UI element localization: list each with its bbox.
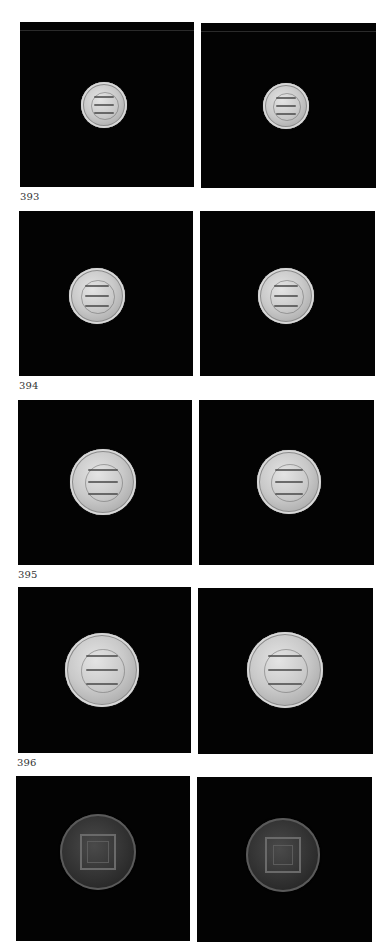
- coin-obverse-image: [70, 449, 136, 515]
- coin-inscription: [88, 469, 117, 495]
- coin-obverse-image: [69, 268, 125, 324]
- coin-obverse-image: [81, 82, 127, 128]
- coin-inner-square: [273, 845, 294, 866]
- photo-edge-line: [20, 30, 194, 31]
- coin-reverse-image: [258, 268, 314, 324]
- coin-inscription: [276, 97, 296, 115]
- coin-reverse-image: [263, 83, 309, 129]
- coin-inscription: [94, 96, 114, 114]
- coin-photo-reverse: [198, 588, 373, 754]
- coin-obverse-image: [65, 633, 139, 707]
- coin-inscription: [85, 285, 110, 307]
- coin-photo-reverse: [197, 777, 372, 942]
- coin-inscription: [274, 285, 299, 307]
- coin-photo-obverse: [16, 776, 190, 941]
- photo-edge-line: [201, 31, 376, 32]
- coin-photo-obverse: [18, 587, 191, 753]
- coin-inscription: [86, 655, 119, 685]
- coin-photo-obverse: [19, 211, 193, 376]
- catalog-number-label: 394: [19, 380, 39, 391]
- catalog-number-label: 393: [20, 191, 40, 202]
- coin-inner-square: [87, 841, 108, 862]
- coin-reverse-image: [257, 450, 321, 514]
- coin-reverse-image: [247, 632, 323, 708]
- catalog-number-label: 395: [18, 569, 38, 580]
- coin-photo-obverse: [20, 22, 194, 187]
- coin-photo-obverse: [18, 400, 192, 565]
- coin-photo-reverse: [200, 211, 375, 376]
- coin-reverse-image: [246, 818, 320, 892]
- coin-photo-reverse: [199, 400, 374, 565]
- coin-inscription: [268, 655, 301, 685]
- coin-obverse-image: [60, 814, 136, 890]
- catalog-number-label: 396: [17, 757, 37, 768]
- coin-inscription: [275, 469, 303, 495]
- coin-photo-reverse: [201, 23, 376, 188]
